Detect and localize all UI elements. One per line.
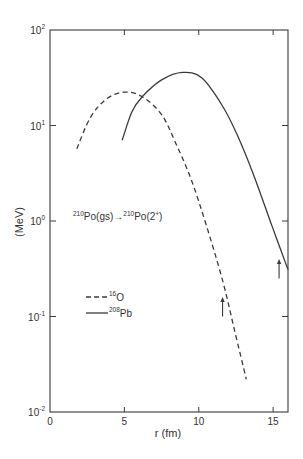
y-tick-label: 102 (30, 23, 45, 36)
y-tick-label: 101 (30, 119, 45, 132)
tick-labels: 05101510-210-1100101102 (28, 23, 279, 427)
x-tick-label: 15 (268, 416, 280, 427)
chart: 05101510-210-1100101102 16O208Pb r (fm) … (0, 0, 303, 459)
arrow-head-icon (220, 297, 224, 302)
legend: 16O208Pb (86, 290, 133, 319)
y-tick-label: 10-2 (28, 405, 45, 418)
x-tick-label: 10 (193, 416, 205, 427)
series-208Pb-curve (122, 72, 288, 269)
x-axis-label: r (fm) (155, 427, 181, 439)
y-tick-label: 10-1 (28, 310, 45, 323)
series-16O-curve (77, 92, 247, 379)
data-series (77, 72, 288, 379)
y-axis-label: (MeV) (13, 207, 25, 237)
threshold-arrows (220, 259, 281, 316)
transition-annotation: 210Po(gs)→210Po(2+) (73, 210, 162, 222)
x-tick-label: 0 (47, 416, 53, 427)
legend-label: 208Pb (109, 306, 133, 319)
arrow-head-icon (277, 259, 281, 264)
legend-label: 16O (109, 290, 124, 303)
x-tick-label: 5 (122, 416, 128, 427)
y-tick-label: 100 (30, 214, 45, 227)
